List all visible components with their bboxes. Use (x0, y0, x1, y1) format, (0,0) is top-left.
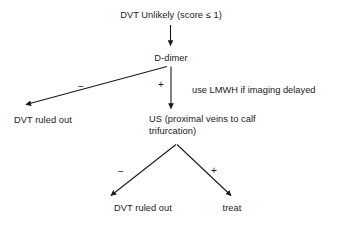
edge-label-d-dimer-negative: − (78, 82, 84, 92)
node-dvt-ruled-out-left: DVT ruled out (14, 115, 72, 127)
edge-label-us-positive: + (211, 166, 217, 176)
node-dvt-unlikely: DVT Unlikely (score ≤ 1) (120, 10, 222, 22)
node-ultrasound: US (proximal veins to calf trifurcation) (149, 114, 279, 137)
node-dvt-ruled-out-bottom: DVT ruled out (114, 203, 172, 215)
node-treat: treat (223, 203, 242, 215)
node-d-dimer: D-dimer (154, 53, 187, 65)
edge-d-dimer-negative (26, 67, 167, 105)
edge-label-d-dimer-positive: + (158, 80, 164, 90)
dvt-pathway-diagram: DVT Unlikely (score ≤ 1) D-dimer DVT rul… (0, 0, 345, 226)
edge-label-us-negative: − (118, 167, 124, 177)
diagram-edges (0, 0, 345, 226)
annotation-lmwh-note: use LMWH if imaging delayed (192, 85, 316, 97)
edge-us-positive (177, 145, 231, 196)
